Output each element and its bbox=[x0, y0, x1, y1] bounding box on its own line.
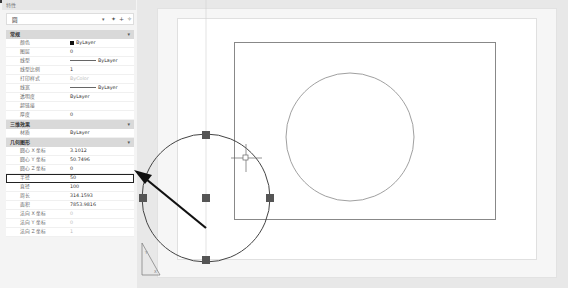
grip-right[interactable] bbox=[266, 194, 274, 202]
svg-text:X: X bbox=[154, 269, 157, 274]
grip-left[interactable] bbox=[139, 194, 147, 202]
circle-unselected[interactable] bbox=[286, 73, 414, 201]
grip-top[interactable] bbox=[202, 131, 210, 139]
grip-bottom[interactable] bbox=[202, 256, 210, 264]
grip-center[interactable] bbox=[202, 194, 210, 202]
canvas-overlay: Y X bbox=[0, 0, 568, 288]
svg-text:Y: Y bbox=[144, 250, 148, 255]
ucs-triangle-icon: Y X bbox=[142, 243, 160, 275]
